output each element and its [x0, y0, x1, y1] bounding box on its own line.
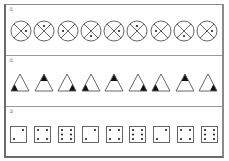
die-face-icon — [106, 126, 123, 143]
circle-row — [10, 20, 218, 42]
panel-dice: ③ — [6, 107, 222, 157]
circle-dot-icon — [173, 20, 195, 42]
panel-label: ① — [9, 6, 13, 12]
die-face-icon — [82, 126, 99, 143]
triangle-shaded-icon — [151, 73, 171, 92]
circle-dot-icon — [33, 20, 55, 42]
panel-label: ③ — [9, 108, 13, 114]
die-face-icon — [201, 126, 218, 143]
triangle-shaded-icon — [57, 73, 77, 92]
figure-frame: ① ② ③ — [4, 4, 224, 158]
circle-dot-icon — [80, 20, 102, 42]
circle-dot-icon — [10, 20, 32, 42]
circle-dot-icon — [196, 20, 218, 42]
circle-dot-icon — [103, 20, 125, 42]
die-face-icon — [10, 126, 27, 143]
die-face-icon — [58, 126, 75, 143]
triangle-shaded-icon — [81, 73, 101, 92]
triangle-shaded-icon — [10, 73, 30, 92]
die-face-icon — [129, 126, 146, 143]
triangle-shaded-icon — [175, 73, 195, 92]
circle-dot-icon — [126, 20, 148, 42]
panel-triangles: ② — [6, 56, 222, 107]
triangle-shaded-icon — [104, 73, 124, 92]
panel-circles: ① — [6, 5, 222, 56]
panel-label: ② — [9, 57, 13, 63]
die-face-icon — [153, 126, 170, 143]
die-face-icon — [177, 126, 194, 143]
triangle-shaded-icon — [128, 73, 148, 92]
die-face-icon — [34, 126, 51, 143]
circle-dot-icon — [57, 20, 79, 42]
triangle-row — [10, 73, 218, 92]
triangle-shaded-icon — [34, 73, 54, 92]
circle-dot-icon — [150, 20, 172, 42]
triangle-shaded-icon — [198, 73, 218, 92]
dice-row — [10, 126, 218, 143]
